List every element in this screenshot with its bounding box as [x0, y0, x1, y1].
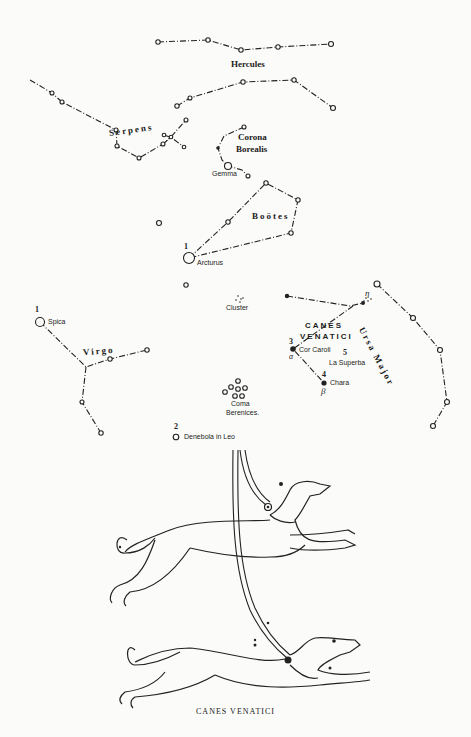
lower-hound-illustration [120, 637, 370, 708]
canes-label-line2: VENATICI [300, 333, 353, 341]
denebola-label: Denebola in Leo [184, 433, 235, 440]
arcturus-magnitude: 1 [184, 243, 188, 251]
spica-magnitude: 1 [35, 306, 39, 314]
corona-label-line1: Corona [238, 133, 267, 142]
cor-caroli-label: Cor Caroli [299, 346, 331, 353]
gemma-label: Gemma [212, 170, 237, 177]
bootes-label: Boötes [252, 212, 290, 221]
coma-label-line2: Berenices. [226, 409, 259, 416]
arcturus-label: Arcturus [197, 259, 223, 266]
la-superba-label: La Superba [329, 359, 365, 366]
la-superba-magnitude: 5 [343, 349, 347, 357]
canes-label-line1: CANES [305, 322, 343, 330]
denebola-magnitude: 2 [174, 423, 178, 431]
coma-label-line1: Coma [231, 400, 250, 407]
figure-caption: CANES VENATICI [0, 707, 471, 716]
beta-label: β [321, 387, 325, 396]
alpha-label: α [289, 353, 293, 360]
chara-label: Chara [330, 379, 349, 386]
corona-label-line2: Borealis [236, 145, 267, 154]
spica-label: Spica [48, 318, 66, 325]
hercules-label: Hercules [231, 60, 265, 69]
leash-illustration [233, 450, 290, 658]
cluster-label: Cluster [226, 304, 248, 311]
chara-magnitude: 4 [322, 371, 326, 379]
eta-label: η [365, 289, 369, 298]
star-chart [0, 0, 471, 737]
cor-caroli-magnitude: 3 [289, 338, 293, 346]
